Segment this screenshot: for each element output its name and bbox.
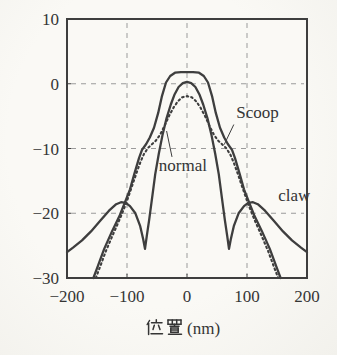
ytick-label: −20 <box>32 204 59 223</box>
annotation-label-scoop: Scoop <box>236 103 279 122</box>
ytick-label: 0 <box>51 75 60 94</box>
xtick-label: 100 <box>234 287 260 306</box>
xtick-label: −100 <box>109 287 144 306</box>
ytick-label: −10 <box>32 140 59 159</box>
cjk-stroke <box>153 325 154 329</box>
scanned-figure-page: −200−1000100200100−10−20−30Scoopnormalcl… <box>0 0 337 355</box>
annotation-label-claw: claw <box>278 186 311 205</box>
xtick-label: 0 <box>183 287 192 306</box>
ytick-label: −30 <box>32 269 59 288</box>
xaxis-title-cjk-glyphs <box>147 320 181 335</box>
cjk-stroke <box>159 325 161 329</box>
xtick-label: 200 <box>294 287 320 306</box>
xaxis-title-unit: (nm) <box>187 319 220 338</box>
xtick-label: −200 <box>49 287 84 306</box>
annotation-label-normal: normal <box>159 156 207 175</box>
ytick-label: 10 <box>42 10 59 29</box>
chart: −200−1000100200100−10−20−30Scoopnormalcl… <box>0 0 337 355</box>
